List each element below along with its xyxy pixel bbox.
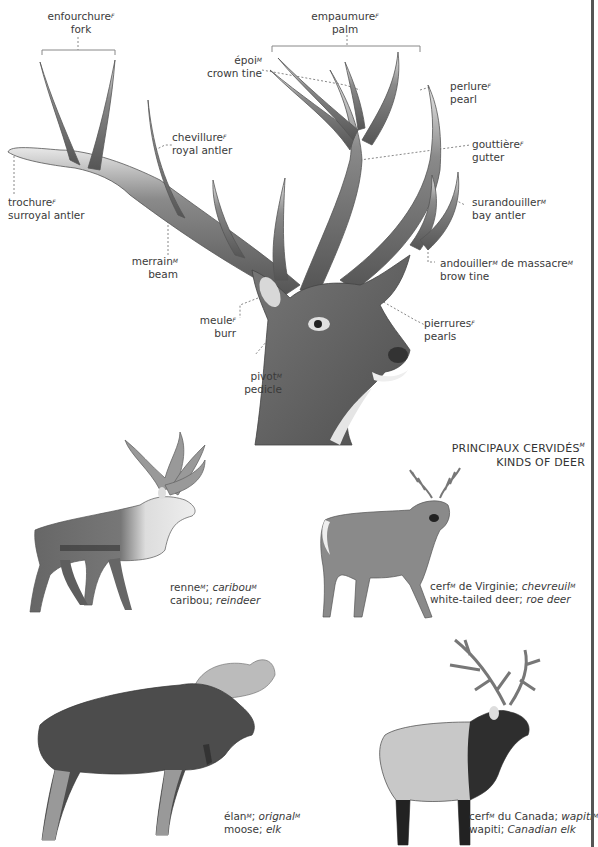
section-title-fr: PRINCIPAUX CERVIDÉS	[452, 442, 580, 455]
label-brow-tine: andouillerM de massacreM brow tine	[440, 257, 573, 283]
label-royal-antler: chevillureF royal antler	[172, 131, 232, 157]
label-pearl: perlureF pearl	[450, 80, 491, 106]
caption-white-tailed-deer: cerfM de Virginie; chevreuilM white-tail…	[430, 580, 575, 606]
label-surroyal-antler: trochureF surroyal antler	[8, 196, 85, 222]
label-bay-antler: surandouillerM bay antler	[472, 196, 546, 222]
caption-wapiti: cerfM du Canada; wapitiM wapiti; Canadia…	[469, 810, 598, 836]
label-beam: merrainM beam	[120, 255, 178, 281]
page-edge-border	[591, 0, 594, 847]
label-burr: meuleF burr	[190, 314, 236, 340]
label-palm: empaumureF palm	[305, 10, 385, 36]
label-fork-en: fork	[71, 23, 92, 35]
right-antler-illustration	[270, 52, 459, 290]
label-fork-fr: enfourchure	[47, 10, 111, 22]
caption-moose: élanM; orignalM moose; elk	[224, 810, 300, 836]
label-crown-tine: époiM crown tine	[200, 54, 262, 80]
section-title-en: KINDS OF DEER	[496, 456, 585, 469]
caption-caribou: renneM; caribouM caribou; reindeer	[170, 581, 260, 607]
section-title: PRINCIPAUX CERVIDÉSM KINDS OF DEER	[400, 438, 585, 470]
leader-lines	[14, 35, 470, 355]
label-pearls: pierruresF pearls	[424, 317, 475, 343]
label-fork: enfourchureF fork	[46, 10, 116, 36]
label-gutter: gouttièreF gutter	[472, 138, 523, 164]
label-pedicle: pivotM pedicle	[220, 370, 282, 396]
